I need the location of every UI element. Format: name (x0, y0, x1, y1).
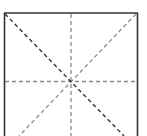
main-diagonal (5, 14, 124, 136)
anti-diagonal (19, 14, 136, 136)
grid-diagram (0, 0, 147, 136)
